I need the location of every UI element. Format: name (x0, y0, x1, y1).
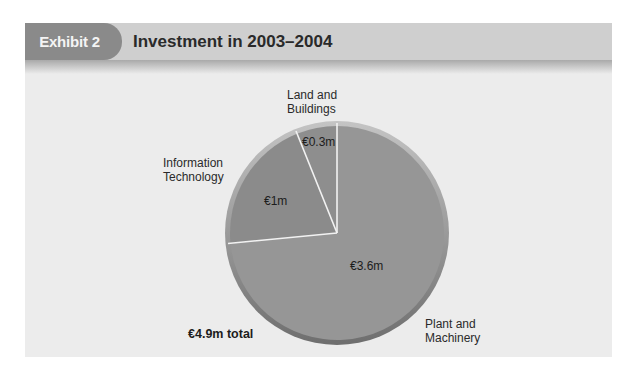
label-line: Machinery (425, 331, 480, 345)
label-plant-machinery: Plant and Machinery (425, 317, 480, 345)
label-line: Information (163, 156, 224, 170)
value-land-buildings: €0.3m (302, 135, 335, 149)
label-line: Land and (287, 88, 337, 102)
label-line: Buildings (287, 102, 337, 116)
value-information-technology: €1m (264, 194, 287, 208)
pie-chart (0, 0, 635, 375)
label-line: Plant and (425, 317, 480, 331)
label-line: Technology (163, 170, 224, 184)
label-information-technology: Information Technology (163, 156, 224, 184)
value-plant-machinery: €3.6m (350, 259, 383, 273)
total-label: €4.9m total (188, 327, 253, 341)
label-land-buildings: Land and Buildings (287, 88, 337, 116)
